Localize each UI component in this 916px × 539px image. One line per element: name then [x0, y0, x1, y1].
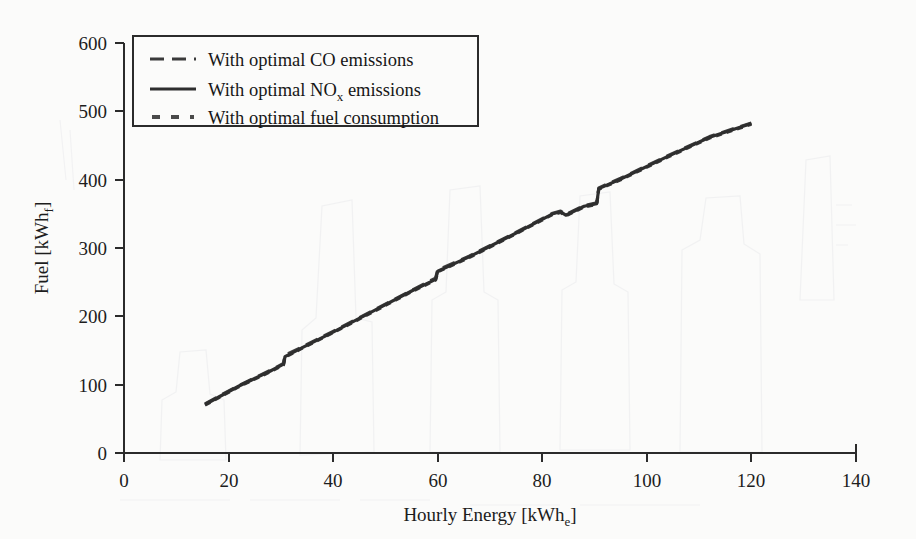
x-tick-label-40: 40 [324, 470, 343, 491]
x-tick-label-80: 80 [533, 470, 552, 491]
chart-legend: With optimal CO emissions With optimal N… [133, 36, 478, 128]
x-tick-label-120: 120 [737, 470, 766, 491]
x-tick-label-140: 140 [842, 470, 871, 491]
legend-label-co-emissions: With optimal CO emissions [208, 50, 413, 70]
y-tick-label-600: 600 [79, 33, 108, 54]
fuel-vs-energy-chart: 0 100 200 300 400 500 600 0 20 40 60 80 … [0, 0, 916, 539]
chart-figure: 0 100 200 300 400 500 600 0 20 40 60 80 … [0, 0, 916, 539]
y-tick-label-200: 200 [79, 306, 108, 327]
y-tick-label-100: 100 [79, 375, 108, 396]
legend-label-nox-end: emissions [343, 80, 421, 100]
y-axis-title-main: Fuel [kWh [31, 212, 52, 294]
y-tick-label-300: 300 [79, 238, 108, 259]
x-tick-label-60: 60 [429, 470, 448, 491]
x-tick-label-20: 20 [220, 470, 239, 491]
y-tick-label-500: 500 [79, 101, 108, 122]
y-tick-label-0: 0 [98, 443, 108, 464]
y-tick-label-400: 400 [79, 170, 108, 191]
y-axis-title-end: ] [31, 202, 52, 208]
x-axis-title-main: Hourly Energy [kWh [403, 504, 565, 525]
x-tick-label-100: 100 [633, 470, 662, 491]
legend-label-nox-main: With optimal NO [208, 80, 337, 100]
x-axis-title-end: ] [570, 504, 576, 525]
legend-label-fuel-consumption: With optimal fuel consumption [208, 108, 439, 128]
x-tick-label-0: 0 [119, 470, 129, 491]
